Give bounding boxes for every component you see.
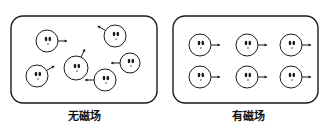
particle <box>189 66 220 88</box>
no-field-panel <box>11 16 157 103</box>
eye-icon <box>49 37 52 41</box>
particle <box>280 34 311 56</box>
particle <box>85 69 116 91</box>
particle-circle-icon <box>280 66 302 88</box>
particle <box>26 65 54 87</box>
eye-icon <box>293 41 296 45</box>
eye-icon <box>107 76 110 80</box>
mouth-icon <box>200 79 201 80</box>
mouth-icon <box>105 82 106 83</box>
mouth-icon <box>115 38 116 39</box>
panel-border <box>173 16 318 103</box>
eye-icon <box>198 73 201 77</box>
arrowhead-icon <box>218 43 221 46</box>
mouth-icon <box>76 70 77 71</box>
eye-icon <box>249 41 252 45</box>
arrowhead-icon <box>265 43 268 46</box>
particle-circle-icon <box>236 34 258 56</box>
arrowhead-icon <box>309 43 312 46</box>
eye-icon <box>39 72 42 76</box>
particle-circle-icon <box>104 25 126 47</box>
particle-circle-icon <box>189 34 211 56</box>
particle-circle-icon <box>94 69 116 91</box>
particle-circle-icon <box>36 30 58 52</box>
particle-circle-icon <box>64 56 88 80</box>
eye-icon <box>132 59 135 63</box>
particle-circle-icon <box>120 53 140 73</box>
eye-icon <box>202 41 205 45</box>
eye-icon <box>249 73 252 77</box>
eye-icon <box>128 59 131 63</box>
eye-icon <box>198 41 201 45</box>
with-field-panel <box>173 16 318 103</box>
eye-icon <box>35 72 38 76</box>
arrowhead-icon <box>65 39 68 42</box>
particle-circle-icon <box>280 34 302 56</box>
particle <box>236 66 267 88</box>
particle <box>280 66 311 88</box>
eye-icon <box>289 41 292 45</box>
with-field-label: 有磁场 <box>208 107 288 123</box>
arrowhead-icon <box>265 75 268 78</box>
arrowhead-icon <box>309 75 312 78</box>
mouth-icon <box>47 43 48 44</box>
eye-icon <box>74 64 77 68</box>
eye-icon <box>103 76 106 80</box>
particle <box>98 25 126 47</box>
eye-icon <box>202 73 205 77</box>
mouth-icon <box>130 65 131 66</box>
eye-icon <box>293 73 296 77</box>
particle <box>64 49 88 80</box>
particle-circle-icon <box>189 66 211 88</box>
arrowhead-icon <box>111 61 114 64</box>
mouth-icon <box>291 47 292 48</box>
arrowhead-icon <box>85 78 88 81</box>
particle <box>236 34 267 56</box>
eye-icon <box>289 73 292 77</box>
mouth-icon <box>247 47 248 48</box>
eye-icon <box>78 64 81 68</box>
particle-circle-icon <box>26 65 48 87</box>
mouth-icon <box>37 78 38 79</box>
arrowhead-icon <box>218 75 221 78</box>
eye-icon <box>113 32 116 36</box>
eye-icon <box>117 32 120 36</box>
eye-icon <box>245 73 248 77</box>
particle-circle-icon <box>236 66 258 88</box>
mouth-icon <box>247 79 248 80</box>
mouth-icon <box>200 47 201 48</box>
eye-icon <box>245 41 248 45</box>
particle <box>111 53 140 73</box>
eye-icon <box>45 37 48 41</box>
mouth-icon <box>291 79 292 80</box>
particle <box>189 34 220 56</box>
no-field-label: 无磁场 <box>44 107 124 123</box>
particle <box>36 30 67 52</box>
